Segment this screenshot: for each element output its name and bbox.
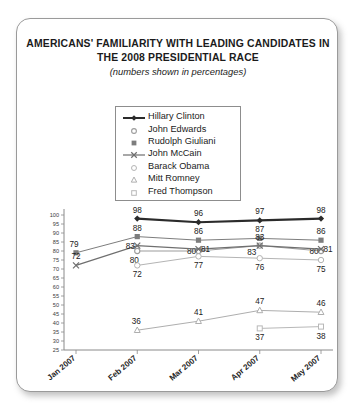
data-point-label: 81 — [201, 245, 211, 254]
data-point-label: 75 — [316, 265, 326, 274]
y-axis-tick-label: 35 — [53, 329, 59, 335]
series-line — [137, 256, 321, 265]
data-point-label: 38 — [316, 332, 326, 341]
data-point-label: 79 — [69, 240, 79, 249]
data-point-label: 81 — [323, 245, 333, 254]
data-point-marker — [196, 254, 201, 259]
y-axis-tick-label: 50 — [53, 302, 59, 308]
data-point-label: 98 — [133, 206, 143, 215]
y-axis-tick-label: 70 — [53, 266, 59, 272]
series-line — [137, 219, 321, 223]
data-point-marker — [257, 326, 262, 331]
y-axis-tick-label: 45 — [53, 311, 59, 317]
data-point-marker — [135, 234, 140, 239]
data-point-label: 76 — [255, 263, 265, 272]
chart-svg: 253035404550556065707580859095100Jan 200… — [17, 19, 339, 393]
x-axis-tick-label: May 2007 — [289, 353, 322, 383]
y-axis-tick-label: 60 — [53, 284, 59, 290]
y-axis-tick-label: 85 — [53, 239, 59, 245]
y-axis-tick-label: 95 — [53, 221, 59, 227]
y-axis-tick-label: 100 — [50, 212, 59, 218]
data-point-label: 36 — [132, 317, 142, 326]
data-point-label: 83 — [255, 233, 265, 242]
y-axis-tick-label: 80 — [53, 248, 59, 254]
x-axis-tick-label: Jan 2007 — [46, 353, 78, 382]
chart-plot-area: 253035404550556065707580859095100Jan 200… — [17, 19, 339, 393]
data-point-label: 72 — [71, 252, 81, 261]
data-point-label: 72 — [133, 270, 143, 279]
data-point-marker — [319, 324, 324, 329]
data-point-marker — [135, 248, 140, 253]
y-axis-tick-label: 55 — [53, 293, 59, 299]
y-axis-tick-label: 25 — [53, 347, 59, 353]
data-point-label: 77 — [194, 261, 204, 270]
data-point-label: 47 — [255, 297, 265, 306]
y-axis-tick-label: 90 — [53, 230, 59, 236]
x-axis-tick-label: Feb 2007 — [107, 353, 139, 382]
data-point-marker — [135, 263, 140, 268]
data-point-label: 98 — [316, 206, 326, 215]
data-point-label: 83 — [247, 248, 257, 257]
data-point-label: 96 — [194, 209, 204, 218]
data-point-label: 86 — [316, 227, 326, 236]
y-axis-tick-label: 75 — [53, 257, 59, 263]
series-line — [137, 246, 321, 251]
chart-card: AMERICANS' FAMILIARITY WITH LEADING CAND… — [16, 18, 338, 392]
data-point-marker — [318, 238, 323, 243]
x-axis-tick-label: Apr 2007 — [229, 353, 261, 382]
data-point-label: 88 — [133, 224, 143, 233]
data-point-marker — [257, 217, 263, 223]
data-point-label: 86 — [194, 227, 204, 236]
data-point-label: 41 — [194, 308, 204, 317]
y-axis-tick-label: 30 — [53, 338, 59, 344]
series-line — [260, 327, 321, 329]
data-point-label: 97 — [255, 207, 265, 216]
data-point-marker — [195, 219, 201, 225]
data-point-label: 83 — [126, 242, 136, 251]
y-axis-tick-label: 40 — [53, 320, 59, 326]
data-point-marker — [257, 307, 263, 313]
data-point-label: 37 — [255, 333, 265, 342]
data-point-marker — [134, 216, 140, 222]
x-axis-tick-label: Mar 2007 — [168, 353, 200, 382]
data-point-marker — [318, 216, 324, 222]
data-point-marker — [318, 257, 323, 262]
data-point-marker — [196, 238, 201, 243]
data-point-marker — [257, 256, 262, 261]
data-point-label: 46 — [316, 299, 326, 308]
y-axis-tick-label: 65 — [53, 275, 59, 281]
screenshot-root: AMERICANS' FAMILIARITY WITH LEADING CAND… — [0, 0, 355, 408]
